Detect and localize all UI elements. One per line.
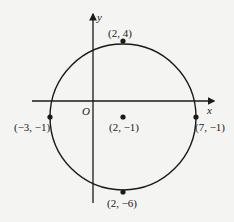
point-right bbox=[193, 114, 198, 119]
x-axis-label: x bbox=[206, 104, 212, 116]
point-left-label: (−3, −1) bbox=[14, 121, 51, 134]
point-bottom bbox=[120, 189, 125, 194]
point-bottom-label: (2, −6) bbox=[107, 197, 137, 210]
y-axis-label: y bbox=[96, 11, 102, 23]
point-right-label: (7, −1) bbox=[195, 121, 225, 134]
point-top-label: (2, 4) bbox=[108, 27, 132, 40]
origin-label: O bbox=[82, 105, 90, 117]
diagram: y x O (2, 4) (−3, −1) (2, −1) (7, −1) (2… bbox=[0, 0, 234, 222]
point-top bbox=[120, 38, 125, 43]
point-center-label: (2, −1) bbox=[109, 121, 139, 134]
point-left bbox=[47, 114, 52, 119]
point-center bbox=[120, 114, 125, 119]
